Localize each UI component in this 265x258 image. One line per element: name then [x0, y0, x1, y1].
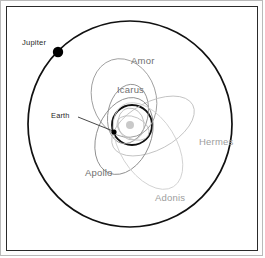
adonis-orbit — [99, 90, 197, 201]
jupiter-label: Jupiter — [22, 39, 46, 47]
adonis-orbit-label: Adonis — [155, 193, 185, 203]
sun-body-dot — [126, 121, 134, 129]
orbit-diagram-figure: JupiterEarthAmorIcarusHermesApolloAdonis — [0, 0, 265, 258]
icarus-orbit-label: Icarus — [117, 85, 144, 95]
earth-label: Earth — [51, 112, 70, 119]
hermes-orbit-label: Hermes — [199, 137, 233, 147]
jupiter-body-dot — [53, 47, 63, 57]
earth-body-dot — [111, 129, 116, 134]
apollo-orbit-label: Apollo — [85, 168, 113, 178]
amor-orbit-label: Amor — [131, 56, 155, 66]
